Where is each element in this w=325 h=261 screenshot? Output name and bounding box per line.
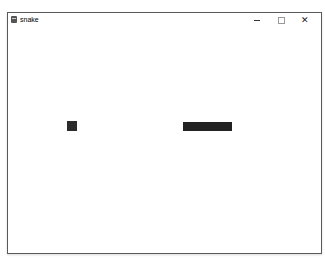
maximize-icon	[278, 17, 285, 24]
title-bar[interactable]: snake ✕	[8, 13, 321, 27]
minimize-icon	[254, 20, 260, 21]
maximize-button[interactable]	[269, 13, 293, 27]
close-icon: ✕	[301, 16, 309, 25]
game-canvas[interactable]	[8, 27, 321, 253]
app-window: snake ✕	[7, 12, 322, 254]
food-block	[67, 121, 77, 131]
snake-body	[183, 122, 232, 131]
app-icon	[11, 16, 17, 23]
window-title: snake	[20, 14, 39, 26]
minimize-button[interactable]	[245, 13, 269, 27]
close-button[interactable]: ✕	[293, 13, 317, 27]
